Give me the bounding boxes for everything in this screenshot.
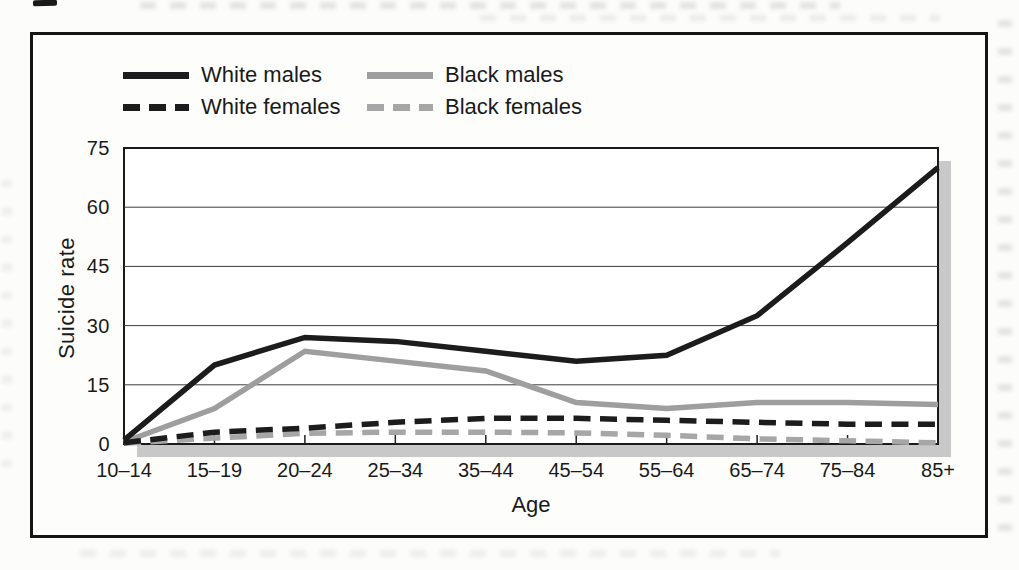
x-tick-label: 45–54 [530,457,622,483]
x-axis-title: Age [511,492,550,518]
x-tick-label: 85+ [892,457,984,483]
y-tick-label: 60 [52,195,110,219]
x-tick-label: 65–74 [711,457,803,483]
legend-dashed-line-swatch [367,104,433,111]
legend-item-white-males: White males [123,63,367,87]
legend-item-white-females: White females [123,95,367,119]
legend-label: White females [201,94,340,120]
legend-label: Black females [445,94,582,120]
scan-artifact [480,15,940,21]
legend-label: White males [201,62,322,88]
y-tick-label: 75 [52,136,110,160]
x-tick-label: 25–34 [349,457,441,483]
legend-solid-line-swatch [367,72,433,79]
x-tick-label: 15–19 [168,457,260,483]
y-axis-title: Suicide rate [54,237,80,359]
y-tick-label: 0 [52,432,110,456]
x-tick-label: 10–14 [78,457,170,483]
legend-item-black-females: Black females [367,95,582,119]
scan-artifact [998,20,1012,540]
scan-artifact [140,2,840,9]
x-tick-label: 35–44 [440,457,532,483]
scan-artifact [2,180,12,480]
scan-artifact [80,550,780,557]
y-tick-label: 15 [52,373,110,397]
legend-item-black-males: Black males [367,63,582,87]
legend-label: Black males [445,62,564,88]
legend-solid-line-swatch [123,72,189,79]
x-tick-label: 20–24 [259,457,351,483]
chart-legend: White malesBlack malesWhite femalesBlack… [123,63,582,119]
x-tick-label: 55–64 [621,457,713,483]
x-tick-label: 75–84 [802,457,894,483]
scan-artifact [33,0,57,6]
scanned-page: White malesBlack malesWhite femalesBlack… [0,0,1019,570]
legend-dashed-line-swatch [123,104,189,111]
